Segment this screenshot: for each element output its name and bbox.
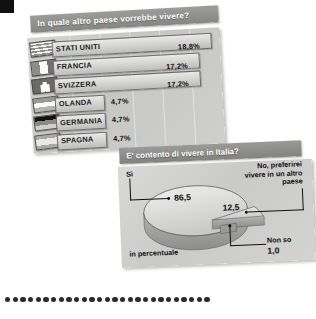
divider-dot [74, 297, 79, 302]
bar-chart-rows: STATI UNITI 18,8% FRANCIA 17,2% SVIZZERA… [51, 31, 225, 152]
pie-value-nonso: 1,0 [267, 245, 279, 255]
bar-value: 17,2% [167, 79, 189, 89]
divider-dot [36, 297, 41, 302]
bar-value: 17,2% [166, 61, 188, 71]
pie-value-si: 86,5 [174, 192, 191, 203]
divider-dot [166, 297, 171, 302]
pie-label-nonso: Non so [267, 235, 292, 245]
pie-chart-graphic: Sì 86,5 No, preferirei vivere in un altr… [126, 166, 316, 268]
divider-dot [151, 297, 156, 302]
divider-dot [189, 297, 194, 302]
divider-dot [82, 297, 87, 302]
divider-dot [13, 297, 18, 302]
divider-dot [59, 297, 64, 302]
bar-chart-title-text: In quale altro paese vorrebbe vivere? [30, 5, 218, 28]
divider-dot [120, 297, 125, 302]
bar-value: 4,7% [113, 133, 131, 143]
divider-dot [158, 297, 163, 302]
divider-dot [204, 297, 209, 302]
bar-value: 4,7% [112, 115, 130, 125]
bar-label: OLANDA [59, 98, 93, 109]
bar-value: 4,7% [111, 96, 129, 106]
dotted-divider [5, 296, 210, 303]
divider-dot [51, 297, 56, 302]
divider-dot [43, 297, 48, 302]
bar-value: 18,8% [178, 41, 200, 51]
pie-label-no: No, preferirei vivere in un altro paese [238, 160, 303, 188]
pie-label-si: Sì [126, 169, 133, 178]
divider-dot [128, 297, 133, 302]
divider-dot [197, 297, 202, 302]
divider-dot [174, 297, 179, 302]
bar-chart-panel: In quale altro paese vorrebbe vivere? ST… [26, 5, 225, 152]
bar-label: SPAGNA [61, 135, 94, 146]
pie-chart-panel: E' contento di vivere in Italia? Sì [117, 140, 316, 268]
divider-dot [112, 297, 117, 302]
divider-dot [181, 297, 186, 302]
divider-dot [143, 297, 148, 302]
pie-value-no: 12,5 [222, 202, 239, 213]
divider-dot [97, 297, 102, 302]
corner-register-mark [0, 0, 14, 13]
divider-dot [5, 297, 10, 302]
divider-dot [66, 297, 71, 302]
divider-dot [20, 297, 25, 302]
divider-dot [105, 297, 110, 302]
divider-dot [28, 297, 33, 302]
divider-dot [135, 297, 140, 302]
divider-dot [89, 297, 94, 302]
